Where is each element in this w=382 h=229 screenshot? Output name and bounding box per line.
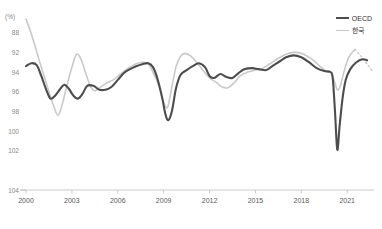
plot-area <box>0 0 382 229</box>
chart-container: (%) OECD 한국 1041021009896949288 20002003… <box>0 0 382 229</box>
series-line-oecd <box>26 55 367 150</box>
